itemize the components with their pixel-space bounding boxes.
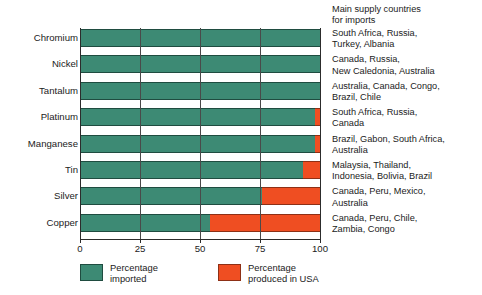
bar-segment-imported[interactable]	[80, 187, 262, 205]
category-label-silver: Silver	[4, 187, 78, 205]
supply-countries-header: Main supply countries for imports	[332, 4, 482, 26]
x-tick-label-50: 50	[180, 243, 220, 255]
supply-countries-column: South Africa, Russia, Turkey, AlbaniaCan…	[332, 28, 482, 239]
category-label-chromium: Chromium	[4, 29, 78, 47]
chart-plot-area	[80, 28, 320, 239]
category-label-platinum: Platinum	[4, 108, 78, 126]
x-tick-label-25: 25	[120, 243, 160, 255]
bar-segment-produced-in-usa[interactable]	[303, 161, 320, 179]
category-label-tin: Tin	[4, 161, 78, 179]
category-label-tantalum: Tantalum	[4, 82, 78, 100]
bar-segment-produced-in-usa[interactable]	[210, 214, 320, 232]
bar-segment-imported[interactable]	[80, 161, 303, 179]
x-tick-label-100: 100	[300, 243, 340, 255]
legend-item-imported[interactable]: Percentage imported	[80, 262, 240, 292]
gridline-100	[320, 28, 321, 239]
legend-label: Percentage imported	[110, 262, 158, 285]
category-label-manganese: Manganese	[4, 135, 78, 153]
x-tick-label-75: 75	[240, 243, 280, 255]
category-label-nickel: Nickel	[4, 55, 78, 73]
supply-countries-cell: Canada, Peru, Chile, Zambia, Congo	[332, 213, 482, 235]
bar-segment-produced-in-usa[interactable]	[262, 187, 320, 205]
supply-countries-cell: South Africa, Russia, Canada	[332, 107, 482, 129]
legend-swatch-red	[218, 264, 241, 281]
supply-countries-cell: Canada, Peru, Mexico, Australia	[332, 186, 482, 208]
gridline-0	[80, 28, 81, 239]
supply-countries-cell: Malaysia, Thailand, Indonesia, Bolivia, …	[332, 160, 482, 182]
gridline-25	[140, 28, 141, 239]
supply-countries-cell: Canada, Russia, New Caledonia, Australia	[332, 54, 482, 76]
gridline-50	[200, 28, 201, 239]
legend-swatch-green	[80, 264, 103, 281]
supply-countries-cell: South Africa, Russia, Turkey, Albania	[332, 28, 482, 50]
legend-item-produced-in-usa[interactable]: Percentage produced in USA	[218, 262, 378, 292]
supply-countries-cell: Australia, Canada, Congo, Brazil, Chile	[332, 81, 482, 103]
supply-countries-cell: Brazil, Gabon, South Africa, Australia	[332, 134, 482, 156]
legend-label: Percentage produced in USA	[248, 262, 319, 285]
gridline-75	[260, 28, 261, 239]
chart-legend: Percentage importedPercentage produced i…	[0, 262, 482, 295]
bar-segment-imported[interactable]	[80, 108, 315, 126]
category-axis-labels: ChromiumNickelTantalumPlatinumManganeseT…	[0, 28, 78, 239]
category-label-copper: Copper	[4, 214, 78, 232]
x-tick-label-0: 0	[60, 243, 100, 255]
bar-segment-imported[interactable]	[80, 135, 315, 153]
bar-segment-imported[interactable]	[80, 214, 210, 232]
